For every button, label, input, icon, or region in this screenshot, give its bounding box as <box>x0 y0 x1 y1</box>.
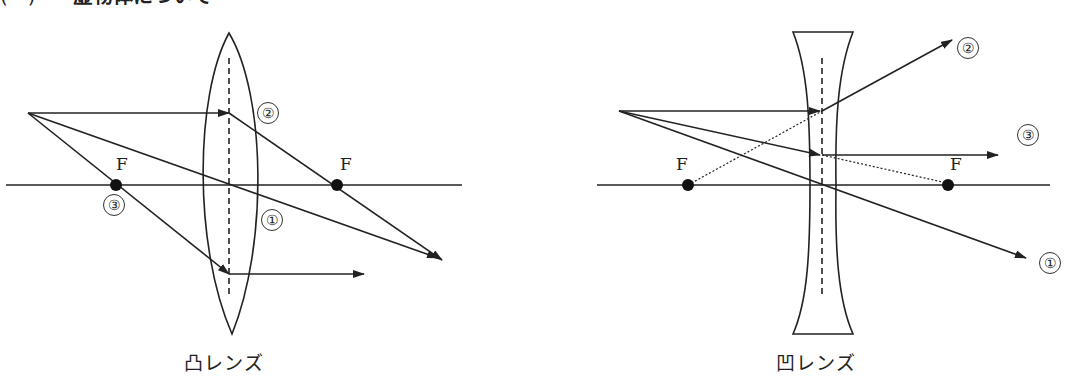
concave-ray-3-incident <box>619 111 820 155</box>
convex-focal-point-right <box>331 179 343 191</box>
convex-lens-diagram <box>6 33 462 334</box>
convex-lens-caption: 凸レンズ <box>184 348 264 375</box>
concave-focal-point-right <box>942 179 954 191</box>
concave-lens-caption: 凹レンズ <box>776 348 856 375</box>
convex-focal-label-left: F <box>116 154 128 174</box>
convex-focal-label-right: F <box>340 154 352 174</box>
concave-ray-3-virtual <box>822 155 947 183</box>
concave-focal-label-right: F <box>950 154 962 174</box>
concave-focal-point-left <box>682 179 694 191</box>
concave-ray-1-marker: ① <box>1039 252 1061 274</box>
convex-lens-shape <box>203 33 258 334</box>
convex-ray-3-incident <box>28 113 229 274</box>
concave-lens-diagram <box>597 32 1050 334</box>
convex-ray-2-marker: ② <box>257 102 279 124</box>
convex-focal-point-left <box>110 179 122 191</box>
convex-ray-1-marker: ① <box>261 209 283 231</box>
concave-ray-2-virtual <box>688 111 822 185</box>
lens-diagrams <box>0 0 1078 384</box>
convex-ray-3-marker: ③ <box>103 194 125 216</box>
concave-ray-3-marker: ③ <box>1017 124 1039 146</box>
concave-lens-shape <box>793 32 853 334</box>
concave-focal-label-left: F <box>676 154 688 174</box>
concave-ray-2-marker: ② <box>957 37 979 59</box>
